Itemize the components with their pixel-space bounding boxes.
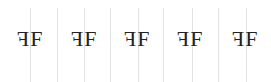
guide-line (163, 8, 164, 82)
mirrored-f-glyph: F (177, 28, 189, 50)
mirrored-f-glyph: F (124, 28, 136, 50)
guide-line (57, 8, 58, 82)
glyph-pair-2: F F (71, 26, 97, 52)
f-glyph: F (245, 28, 257, 50)
f-glyph: F (84, 28, 96, 50)
f-glyph: F (137, 28, 149, 50)
guide-line (110, 8, 111, 82)
mirrored-f-glyph: F (71, 28, 83, 50)
guide-line (218, 8, 219, 82)
f-glyph: F (190, 28, 202, 50)
glyph-pair-5: F F (232, 26, 258, 52)
glyph-pair-4: F F (177, 26, 203, 52)
mirrored-f-glyph: F (17, 28, 29, 50)
mirrored-f-glyph: F (232, 28, 244, 50)
glyph-pair-3: F F (124, 26, 150, 52)
f-glyph: F (30, 28, 42, 50)
glyph-pair-1: F F (17, 26, 43, 52)
